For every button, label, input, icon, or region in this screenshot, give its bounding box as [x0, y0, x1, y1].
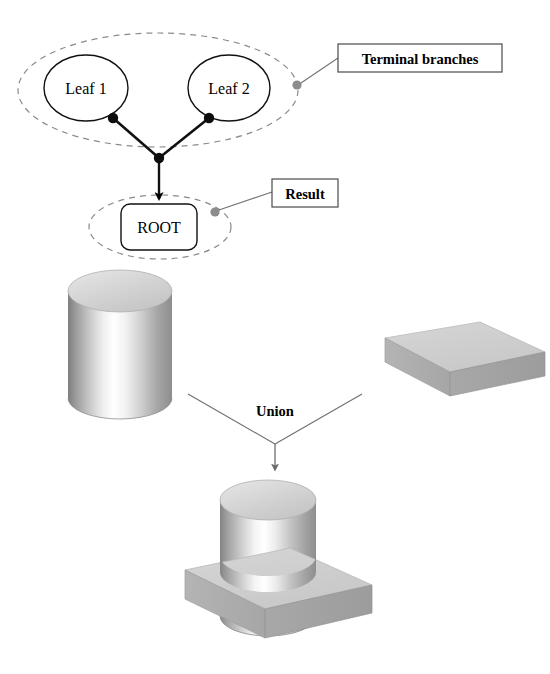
- leaf-1-connector-dot: [108, 113, 118, 123]
- junction-dot: [154, 153, 164, 163]
- cylinder-top-face: [68, 270, 172, 312]
- root-node-label: ROOT: [137, 219, 181, 236]
- box-solid: [385, 322, 545, 396]
- union-result-solid: [185, 480, 372, 638]
- edge-leaf1-junction: [113, 118, 159, 158]
- terminal-branches-callout-label: Terminal branches: [362, 51, 479, 67]
- union-operation-group: Union: [188, 394, 362, 470]
- csg-figure: Leaf 1 Leaf 2 ROOT Terminal branches Res…: [0, 0, 550, 674]
- leaf-2-label: Leaf 2: [208, 80, 249, 97]
- result-cylinder-top-face: [220, 480, 316, 520]
- result-callout-label: Result: [285, 186, 325, 202]
- edge-leaf2-junction: [159, 118, 209, 158]
- terminal-branches-anchor-dot: [292, 80, 301, 89]
- terminal-branches-leader-line: [298, 58, 338, 85]
- result-anchor-dot: [210, 207, 219, 216]
- cylinder-solid: [68, 270, 172, 419]
- union-right-line: [275, 394, 362, 444]
- union-left-line: [188, 394, 275, 444]
- union-operation-label: Union: [256, 403, 294, 419]
- leaf-2-connector-dot: [204, 113, 214, 123]
- csg-tree-group: Leaf 1 Leaf 2 ROOT Terminal branches Res…: [18, 33, 502, 259]
- csg-diagram-svg: Leaf 1 Leaf 2 ROOT Terminal branches Res…: [0, 0, 550, 674]
- leaf-1-label: Leaf 1: [65, 80, 106, 97]
- result-leader-line: [216, 192, 272, 211]
